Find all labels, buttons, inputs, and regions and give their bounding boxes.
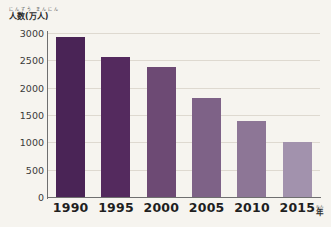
y-axis-tick-label: 2000 (4, 82, 44, 93)
x-axis-tick-label: 2010 (229, 200, 274, 215)
y-axis-tick-label: 500 (4, 164, 44, 175)
x-axis-tick-label: 1990 (48, 200, 93, 215)
bar (147, 67, 176, 197)
x-axis-tick-label: 2005 (184, 200, 229, 215)
y-axis-tick-label: 0 (4, 192, 44, 203)
y-axis-tick-labels: 050010001500200025003000 (0, 33, 44, 197)
bar-chart: にんずう まんにん 人数(万人) 05001000150020002500300… (0, 0, 331, 227)
bar (56, 37, 85, 197)
y-axis-tick-label: 1500 (4, 110, 44, 121)
x-axis-title: ねん 年 (316, 205, 324, 217)
x-axis-tick-labels: 199019952000200520102015 (48, 199, 320, 221)
bar (237, 121, 266, 197)
bar (283, 142, 312, 197)
bars-layer (48, 33, 320, 197)
bar (192, 98, 221, 197)
y-axis-tick-label: 1000 (4, 137, 44, 148)
x-axis-title-text: 年 (316, 208, 323, 217)
y-axis-title-text: 人数(万人) (9, 12, 48, 21)
x-axis-tick-label: 1995 (93, 200, 138, 215)
x-axis-tick-label: 2015 (275, 200, 320, 215)
x-axis-line (47, 197, 321, 198)
y-axis-tick-label: 2500 (4, 55, 44, 66)
y-axis-tick-label: 3000 (4, 28, 44, 39)
bar (101, 57, 130, 197)
y-axis-title: にんずう まんにん 人数(万人) (9, 7, 60, 22)
x-axis-tick-label: 2000 (139, 200, 184, 215)
